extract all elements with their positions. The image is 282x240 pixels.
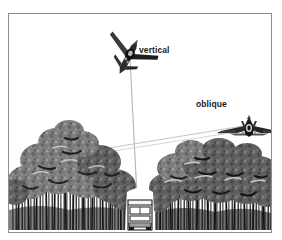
vertical-aircraft [96,27,162,86]
label-oblique: oblique [196,100,227,109]
figure-page: sensor look a [0,0,282,240]
clipped-heading: sensor look a [6,0,266,7]
illustration-scene: vertical oblique [9,14,271,232]
label-vertical: vertical [139,46,170,55]
tree-canopy-right [147,138,271,230]
ground-vehicle [125,188,155,230]
tree-canopy-left [9,120,137,230]
figure-frame: vertical oblique [8,13,272,233]
